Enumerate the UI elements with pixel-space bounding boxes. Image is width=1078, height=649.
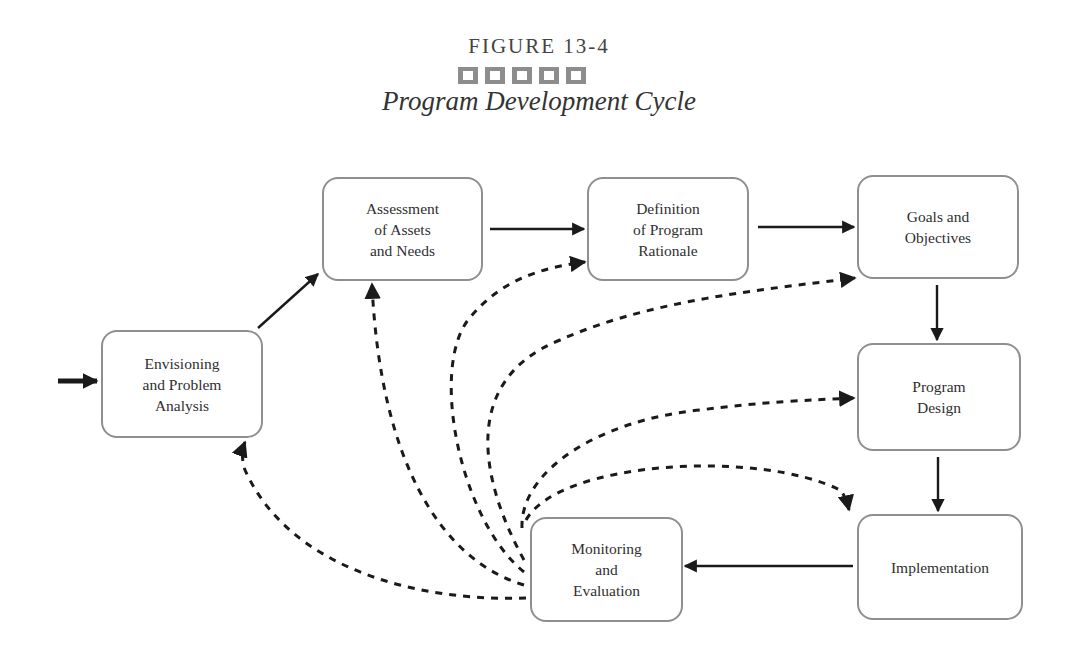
node-definition: Definition of Program Rationale xyxy=(587,177,749,281)
feedback-to-envisioning xyxy=(243,442,527,598)
feedback-to-assessment xyxy=(372,284,524,585)
node-envisioning: Envisioning and Problem Analysis xyxy=(101,330,263,438)
node-program-design: Program Design xyxy=(857,343,1021,451)
node-monitoring: Monitoring and Evaluation xyxy=(530,517,683,622)
feedback-to-implementation xyxy=(526,466,849,520)
arrow-envisioning-to-assessment xyxy=(258,274,318,328)
feedback-to-design xyxy=(522,398,854,528)
node-assessment: Assessment of Assets and Needs xyxy=(322,177,483,281)
node-implementation: Implementation xyxy=(857,514,1023,620)
node-goals: Goals and Objectives xyxy=(857,175,1019,279)
